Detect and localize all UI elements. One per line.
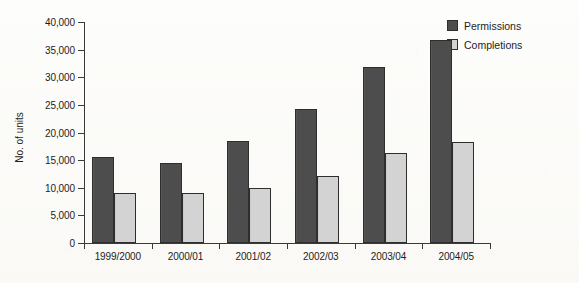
y-tick-mark	[78, 188, 84, 189]
x-category-label: 2000/01	[168, 251, 203, 262]
legend-swatch-permissions	[447, 20, 458, 31]
x-category-label: 2001/02	[235, 251, 270, 262]
y-tick-mark	[78, 133, 84, 134]
x-category-label: 2002/03	[303, 251, 338, 262]
x-category-label: 1999/2000	[95, 251, 141, 262]
legend-item-permissions[interactable]: Permissions	[447, 17, 522, 34]
x-category-label: 2004/05	[438, 251, 473, 262]
y-tick-label: 0	[70, 238, 75, 249]
bar-permissions-2001-02	[227, 141, 249, 243]
x-category-label: 2003/04	[371, 251, 406, 262]
chart-legend: Permissions Completions	[447, 17, 522, 55]
bar-permissions-2002-03	[295, 109, 317, 243]
x-tick-mark	[490, 243, 491, 249]
y-tick-label: 35,000	[45, 44, 75, 55]
bar-completions-2003-04	[385, 153, 407, 243]
bar-completions-2000-01	[182, 193, 204, 243]
y-axis-line	[84, 22, 85, 244]
y-tick-mark	[78, 160, 84, 161]
bar-permissions-1999-2000	[92, 157, 114, 243]
x-tick-mark	[84, 243, 85, 249]
y-tick-label: 25,000	[45, 99, 75, 110]
y-tick-mark	[78, 77, 84, 78]
bar-completions-2002-03	[317, 176, 339, 243]
legend-label-permissions: Permissions	[464, 20, 521, 32]
bar-completions-1999-2000	[114, 193, 136, 243]
x-tick-mark	[422, 243, 423, 249]
y-tick-label: 15,000	[45, 155, 75, 166]
x-tick-mark	[355, 243, 356, 249]
y-tick-label: 30,000	[45, 72, 75, 83]
bar-completions-2001-02	[249, 188, 271, 243]
y-tick-label: 40,000	[45, 17, 75, 28]
legend-item-completions[interactable]: Completions	[447, 36, 522, 53]
x-tick-mark	[287, 243, 288, 249]
y-tick-mark	[78, 22, 84, 23]
bar-chart: No. of units 05,00010,00015,00020,00025,…	[0, 0, 579, 283]
x-tick-mark	[219, 243, 220, 249]
y-tick-mark	[78, 105, 84, 106]
y-tick-mark	[78, 50, 84, 51]
x-tick-mark	[152, 243, 153, 249]
bar-completions-2004-05	[452, 142, 474, 243]
bar-permissions-2004-05	[430, 40, 452, 243]
bar-permissions-2000-01	[160, 163, 182, 243]
y-tick-label: 20,000	[45, 127, 75, 138]
y-tick-label: 10,000	[45, 182, 75, 193]
y-axis-title: No. of units	[14, 98, 25, 178]
bar-permissions-2003-04	[363, 67, 385, 243]
y-tick-mark	[78, 215, 84, 216]
legend-label-completions: Completions	[464, 39, 522, 51]
y-tick-label: 5,000	[50, 210, 75, 221]
